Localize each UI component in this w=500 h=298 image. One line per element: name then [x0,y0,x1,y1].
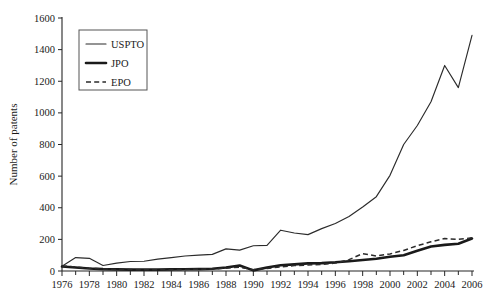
x-tick-label: 1988 [216,279,237,290]
y-tick-label: 200 [39,234,55,245]
x-tick-label: 1986 [188,279,209,290]
x-tick-label: 1976 [52,279,73,290]
chart-canvas: 02004006008001000120014001600 1976197819… [0,0,500,298]
patent-trends-chart: 02004006008001000120014001600 1976197819… [0,0,500,298]
y-tick-label: 600 [39,171,55,182]
y-tick-label: 1600 [34,13,55,24]
y-tick-label: 800 [39,139,55,150]
y-tick-label: 1400 [34,44,55,55]
y-tick-label: 1000 [34,107,55,118]
x-tick-label: 1982 [134,279,155,290]
x-tick-label: 2002 [407,279,428,290]
y-axis-title: Number of patents [7,104,19,186]
y-axis-tick-group: 02004006008001000120014001600 [34,13,62,277]
x-tick-label: 1984 [161,279,183,290]
legend-label-epo: EPO [111,77,131,88]
legend-label-uspto: USPTO [111,39,144,50]
x-axis-tick-group: 1976197819801982198419861988199019921994… [52,271,483,290]
legend-label-jpo: JPO [111,58,129,69]
y-tick-label: 1200 [34,76,55,87]
chart-legend: USPTOJPOEPO [79,30,147,90]
x-tick-label: 2000 [380,279,401,290]
x-tick-label: 1998 [352,279,373,290]
x-tick-label: 1978 [79,279,100,290]
series-line-jpo [62,239,472,271]
x-tick-label: 2006 [462,279,483,290]
x-tick-label: 1994 [298,279,320,290]
x-tick-label: 2004 [434,279,456,290]
y-tick-label: 400 [39,202,55,213]
x-tick-label: 1996 [325,279,346,290]
x-tick-label: 1980 [106,279,127,290]
x-tick-label: 1992 [270,279,291,290]
x-tick-label: 1990 [243,279,264,290]
y-tick-label: 0 [50,266,55,277]
